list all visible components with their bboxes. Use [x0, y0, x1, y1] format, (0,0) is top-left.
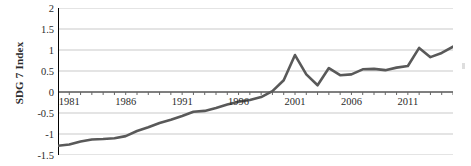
- scan-artifact-speck: [462, 63, 465, 69]
- x-tick-label: 1986: [115, 96, 136, 107]
- x-tick-label: 2011: [398, 96, 419, 107]
- y-tick-label: -1: [22, 129, 54, 140]
- x-tick-label: 2001: [285, 96, 306, 107]
- y-tick-label: -0.5: [22, 108, 54, 119]
- y-tick-label: 2: [22, 3, 54, 14]
- y-tick-label: 0: [22, 87, 54, 98]
- x-tick-label: 1991: [172, 96, 193, 107]
- x-tick-label: 1981: [59, 96, 80, 107]
- chart-canvas: [58, 8, 453, 155]
- y-tick-label: 0.5: [22, 66, 54, 77]
- plot-area: [58, 8, 453, 155]
- chart-figure: SDG 7 Index 21.510.50-0.5-1-1.5 19811986…: [0, 0, 471, 166]
- y-tick-label: 1.5: [22, 24, 54, 35]
- x-axis-tick-labels: 1981198619911996200120062011: [58, 96, 453, 110]
- x-tick-label: 1996: [228, 96, 249, 107]
- y-tick-label: -1.5: [22, 150, 54, 161]
- y-tick-label: 1: [22, 45, 54, 56]
- gridlines: [58, 8, 453, 155]
- x-tick-label: 2006: [341, 96, 362, 107]
- y-axis-tick-labels: 21.510.50-0.5-1-1.5: [22, 0, 54, 166]
